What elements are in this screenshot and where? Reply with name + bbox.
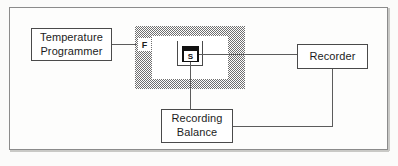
connector-programmer-to-furnace — [112, 44, 137, 45]
connector-sample-to-balance — [190, 62, 191, 110]
temperature-programmer-line-1: Temperature — [40, 31, 103, 45]
temperature-programmer-line-2: Programmer — [40, 45, 102, 59]
furnace-label: F — [138, 38, 151, 51]
connector-recorder-vertical — [332, 69, 333, 126]
connector-sample-to-recorder — [199, 54, 297, 55]
recording-balance-line-2: Balance — [177, 126, 217, 140]
node-recording-balance: Recording Balance — [161, 109, 233, 143]
sample-label: S — [184, 51, 197, 61]
figure-canvas: F S Temperature Programmer Recorder Reco… — [0, 0, 398, 166]
recording-balance-line-1: Recording — [171, 112, 222, 126]
connector-recorder-to-balance — [233, 126, 333, 127]
frame-shadow-right — [388, 8, 390, 151]
recorder-label: Recorder — [309, 50, 355, 64]
node-temperature-programmer: Temperature Programmer — [31, 28, 112, 61]
node-recorder: Recorder — [297, 44, 368, 69]
frame-shadow-bottom — [10, 150, 389, 152]
